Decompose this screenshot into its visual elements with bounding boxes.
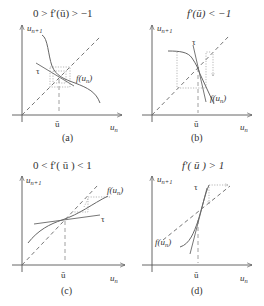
curve-label: f(un) xyxy=(210,93,226,104)
tangent-line xyxy=(190,188,207,254)
curve-label: f(un) xyxy=(107,185,123,196)
x-axis-label: un xyxy=(110,273,118,284)
x-axis-label: un xyxy=(110,122,118,133)
panel-c: 0 < f′( ū ) < 1 un+1 un ū τ f(un) (c) xyxy=(12,159,125,297)
fixed-point-label: ū xyxy=(194,270,199,280)
condition-label: 0 < f′( ū ) < 1 xyxy=(33,159,92,172)
tangent-label: τ xyxy=(192,37,196,47)
tangent-line xyxy=(193,45,206,102)
x-axis-label: un xyxy=(240,122,248,133)
tangent-label: τ xyxy=(36,66,40,76)
y-axis-label: un+1 xyxy=(27,23,42,34)
panel-caption: (d) xyxy=(191,285,203,297)
panel-caption: (b) xyxy=(191,132,203,144)
fixed-point-label: ū xyxy=(61,270,66,280)
y-axis-label: un+1 xyxy=(157,174,172,185)
condition-label: 0 > f′(ū) > −1 xyxy=(33,7,93,20)
tangent-label: τ xyxy=(194,182,198,192)
condition-label: f′( ū ) > 1 xyxy=(182,159,224,172)
panel-b: f′(ū) < −1 un+1 un ū τ f(un) (b) xyxy=(142,7,252,144)
tangent-line xyxy=(36,63,74,86)
panel-a: 0 > f′(ū) > −1 un+1 un ū τ f(un) (a) xyxy=(12,7,122,144)
y-axis-label: un+1 xyxy=(26,175,41,186)
y-axis-label: un+1 xyxy=(157,23,172,34)
curve-label: f(un) xyxy=(155,237,171,248)
fixed-point-label: ū xyxy=(55,119,60,129)
cobweb-diag-step xyxy=(84,199,88,207)
condition-label: f′(ū) < −1 xyxy=(187,7,231,20)
panel-caption: (a) xyxy=(62,132,73,144)
identity-line xyxy=(22,185,98,265)
cobweb-path xyxy=(177,52,211,88)
cobweb-diagram-figure: 0 > f′(ū) > −1 un+1 un ū τ f(un) (a) f′(… xyxy=(0,0,264,306)
curve-label: f(un) xyxy=(76,73,92,84)
panel-caption: (c) xyxy=(61,285,72,297)
tangent-line xyxy=(34,215,100,224)
fixed-point-label: ū xyxy=(194,119,199,129)
identity-line xyxy=(163,186,230,240)
identity-line xyxy=(152,35,230,115)
x-axis-label: un xyxy=(240,273,248,284)
tangent-label: τ xyxy=(101,214,105,224)
panel-d: f′( ū ) > 1 un+1 un ū τ f(un) (d) xyxy=(142,159,252,297)
